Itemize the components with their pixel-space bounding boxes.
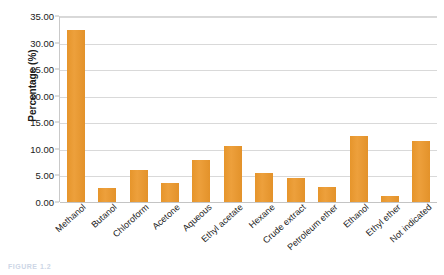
bar bbox=[130, 170, 148, 202]
bar bbox=[318, 187, 336, 202]
y-tick-label: 20.00 bbox=[10, 90, 54, 101]
plot-area bbox=[59, 16, 437, 202]
bar-slot bbox=[154, 17, 185, 202]
x-tick-label: Butanol bbox=[90, 202, 119, 230]
x-tick-label: Ethanol bbox=[342, 202, 371, 230]
chart-figure: Percentage (%) 0.005.0010.0015.0020.0025… bbox=[0, 0, 444, 275]
y-tick-label: 30.00 bbox=[10, 37, 54, 48]
bar-slot bbox=[249, 17, 280, 202]
y-axis-tick-labels: 0.005.0010.0015.0020.0025.0030.0035.00 bbox=[10, 16, 54, 202]
bar-slot bbox=[343, 17, 374, 202]
x-tick-label: Acetone bbox=[151, 202, 182, 232]
y-tick-label: 15.00 bbox=[10, 117, 54, 128]
bar-slot bbox=[280, 17, 311, 202]
bar bbox=[192, 160, 210, 202]
y-tick-label: 5.00 bbox=[10, 170, 54, 181]
x-tick-label: Methanol bbox=[53, 202, 87, 234]
bar-slot bbox=[186, 17, 217, 202]
bar bbox=[287, 178, 305, 202]
bar-slot bbox=[91, 17, 122, 202]
bar-slot bbox=[217, 17, 248, 202]
y-tick-label: 25.00 bbox=[10, 64, 54, 75]
bar-series bbox=[60, 17, 437, 202]
y-tick-label: 0.00 bbox=[10, 197, 54, 208]
y-tick-label: 10.00 bbox=[10, 143, 54, 154]
bar bbox=[255, 173, 273, 202]
bar bbox=[161, 183, 179, 202]
bar-slot bbox=[123, 17, 154, 202]
y-tick-label: 35.00 bbox=[10, 11, 54, 22]
bar-slot bbox=[406, 17, 437, 202]
bar bbox=[224, 146, 242, 202]
bar-slot bbox=[311, 17, 342, 202]
bar-slot bbox=[374, 17, 405, 202]
bar-slot bbox=[60, 17, 91, 202]
figure-caption: FIGURE 1.2 bbox=[8, 263, 51, 269]
x-tick-label: Hexane bbox=[247, 202, 277, 230]
bar bbox=[67, 30, 85, 202]
x-axis-tick-labels: MethanolButanolChloroformAcetoneAqueousE… bbox=[59, 202, 437, 262]
bar bbox=[412, 141, 430, 202]
bar bbox=[350, 136, 368, 202]
bar bbox=[98, 188, 116, 202]
